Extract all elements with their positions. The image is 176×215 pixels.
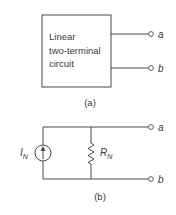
box-label-line-1: Linear [49,31,75,42]
terminal-label-b: b [158,63,164,74]
caption-b: (b) [94,191,106,202]
terminal-b-bottom [149,177,154,182]
box-label-line-2: two-terminal [49,45,101,56]
figure-a: Linear two-terminal circuit a b (a) [42,15,164,108]
figure-b: IN RN a b (b) [20,122,164,203]
resistor-label: RN [100,147,113,160]
terminal-label-a: a [158,29,164,40]
resistor-icon [88,143,94,164]
terminal-label-b-b: b [158,174,164,185]
source-label: IN [20,147,29,160]
terminal-label-b-a: a [158,122,164,133]
circuit-figure: Linear two-terminal circuit a b (a) IN R… [0,0,176,215]
terminal-b-top [149,125,154,130]
terminal-a-top [149,32,154,37]
caption-a: (a) [84,97,96,108]
current-source-icon [35,145,51,161]
box-label-line-3: circuit [49,58,74,69]
terminal-a-bottom [149,66,154,71]
